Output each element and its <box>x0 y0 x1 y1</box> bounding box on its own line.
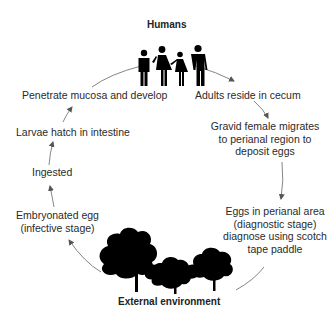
step-larvae-hatch: Larvae hatch in intestine <box>16 126 130 139</box>
step-gravid-female: Gravid female migrates to perianal regio… <box>205 120 325 158</box>
external-environment-title: External environment <box>118 296 220 307</box>
step-embryonated-egg: Embryonated egg (infective stage) <box>10 209 105 234</box>
step-ingested: Ingested <box>32 166 72 179</box>
step-adults-reside: Adults reside in cecum <box>195 89 301 102</box>
step-penetrate-mucosa: Penetrate mucosa and develop <box>22 89 167 102</box>
life-cycle-diagram: Humans External environment Penetrate mu… <box>0 0 336 333</box>
humans-title: Humans <box>147 19 186 30</box>
step-eggs-perianal: Eggs in perianal area (diagnostic stage)… <box>215 205 335 255</box>
